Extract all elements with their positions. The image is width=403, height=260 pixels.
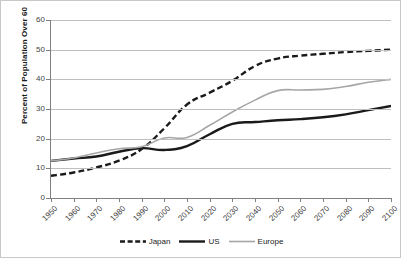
x-tick-mark xyxy=(346,198,347,202)
y-tick-mark xyxy=(46,139,50,140)
legend-label: Europe xyxy=(258,237,284,246)
x-tick-mark xyxy=(232,198,233,202)
chart-legend: JapanUSEurope xyxy=(1,237,402,246)
x-tick-label: 2100 xyxy=(373,204,399,230)
legend-label: US xyxy=(208,237,219,246)
x-tick-label: 1970 xyxy=(79,204,105,230)
x-tick-mark xyxy=(142,198,143,202)
x-tick-label: 2060 xyxy=(283,204,309,230)
chart-title xyxy=(1,1,402,7)
gridline xyxy=(51,50,391,51)
legend-item-us[interactable]: US xyxy=(179,237,219,246)
x-tick-label: 2000 xyxy=(147,204,173,230)
x-tick-mark xyxy=(323,198,324,202)
y-tick-label: 40 xyxy=(5,75,45,83)
x-tick-mark xyxy=(391,198,392,202)
x-tick-mark xyxy=(255,198,256,202)
series-line-europe xyxy=(51,79,391,161)
y-tick-label: 50 xyxy=(5,46,45,54)
y-tick-mark xyxy=(46,79,50,80)
x-tick-mark xyxy=(187,198,188,202)
x-tick-label: 2070 xyxy=(305,204,331,230)
x-tick-label: 2090 xyxy=(351,204,377,230)
legend-item-europe[interactable]: Europe xyxy=(229,237,284,246)
legend-label: Japan xyxy=(149,237,171,246)
x-tick-label: 2020 xyxy=(192,204,218,230)
x-tick-mark xyxy=(300,198,301,202)
x-tick-mark xyxy=(51,198,52,202)
x-tick-mark xyxy=(119,198,120,202)
x-tick-mark xyxy=(74,198,75,202)
legend-swatch-us-icon xyxy=(179,237,205,246)
gridline xyxy=(51,109,391,110)
y-tick-mark xyxy=(46,50,50,51)
x-tick-label: 1990 xyxy=(124,204,150,230)
x-tick-label: 2040 xyxy=(237,204,263,230)
x-tick-label: 2010 xyxy=(169,204,195,230)
legend-swatch-europe-icon xyxy=(229,237,255,246)
x-tick-label: 1960 xyxy=(56,204,82,230)
y-tick-label: 0 xyxy=(5,194,45,202)
gridline xyxy=(51,20,391,21)
plot-area xyxy=(51,20,391,198)
y-tick-label: 60 xyxy=(5,16,45,24)
x-tick-mark xyxy=(96,198,97,202)
y-tick-label: 30 xyxy=(5,105,45,113)
x-tick-label: 2050 xyxy=(260,204,286,230)
y-tick-label: 20 xyxy=(5,135,45,143)
x-tick-label: 2030 xyxy=(215,204,241,230)
y-tick-mark xyxy=(46,20,50,21)
y-tick-label: 10 xyxy=(5,164,45,172)
x-axis-line xyxy=(50,198,391,199)
y-tick-mark xyxy=(46,109,50,110)
y-tick-mark xyxy=(46,198,50,199)
gridline xyxy=(51,79,391,80)
gridline xyxy=(51,168,391,169)
chart-container: Percent of Population Over 60 0102030405… xyxy=(0,0,401,258)
y-tick-mark xyxy=(46,168,50,169)
x-tick-label: 2080 xyxy=(328,204,354,230)
x-tick-mark xyxy=(164,198,165,202)
series-line-japan xyxy=(51,50,391,176)
legend-swatch-japan-icon xyxy=(120,237,146,246)
x-tick-mark xyxy=(368,198,369,202)
x-tick-mark xyxy=(210,198,211,202)
x-tick-mark xyxy=(278,198,279,202)
series-line-us xyxy=(51,106,391,161)
x-tick-label: 1980 xyxy=(101,204,127,230)
legend-item-japan[interactable]: Japan xyxy=(120,237,171,246)
gridline xyxy=(51,139,391,140)
